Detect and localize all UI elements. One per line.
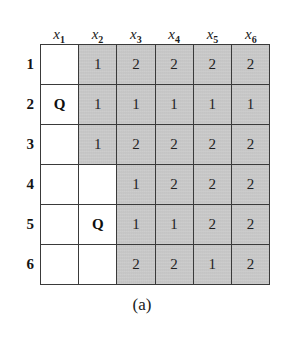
cell-value: 1 <box>132 217 140 232</box>
grid-cell-r6-c5[interactable]: 1 <box>194 245 232 285</box>
grid-cell-r1-c5[interactable]: 2 <box>194 45 232 85</box>
grid-cell-r3-c4[interactable]: 2 <box>156 125 194 165</box>
cell-value: 1 <box>209 257 217 272</box>
cell-value: 1 <box>209 97 217 112</box>
cell-value: 1 <box>247 97 255 112</box>
grid-cell-r5-c6[interactable]: 2 <box>232 205 270 245</box>
grid-cell-r5-c5[interactable]: 2 <box>194 205 232 245</box>
row-label-1: 1 <box>12 44 36 84</box>
column-header-x6: x6 <box>232 16 270 42</box>
cell-value: 1 <box>94 97 102 112</box>
grid-cell-r4-c4[interactable]: 2 <box>156 165 194 205</box>
cell-value: 1 <box>132 97 140 112</box>
grid-cell-r1-c6[interactable]: 2 <box>232 45 270 85</box>
grid-cell-r2-c5[interactable]: 1 <box>194 85 232 125</box>
cell-value: 1 <box>94 57 102 72</box>
cell-value: 2 <box>170 257 178 272</box>
column-header-variable: x <box>168 27 175 42</box>
column-header-row: x1x2x3x4x5x6 <box>40 16 270 42</box>
cell-value: 2 <box>247 177 255 192</box>
grid-cell-r4-c5[interactable]: 2 <box>194 165 232 205</box>
cell-value: 1 <box>170 97 178 112</box>
row-label-5: 5 <box>12 205 36 245</box>
grid-cell-r2-c3[interactable]: 1 <box>117 85 155 125</box>
cell-value: 2 <box>209 57 217 72</box>
grid-cell-r3-c5[interactable]: 2 <box>194 125 232 165</box>
cell-value: 1 <box>132 177 140 192</box>
row-label-2: 2 <box>12 84 36 124</box>
cell-value: 2 <box>170 137 178 152</box>
column-header-x4: x4 <box>155 16 193 42</box>
grid-cell-r3-c2[interactable]: 1 <box>79 125 117 165</box>
grid-cell-r6-c1[interactable] <box>41 245 79 285</box>
cell-value: 2 <box>132 257 140 272</box>
grid-cell-r1-c1[interactable] <box>41 45 79 85</box>
cell-value: 1 <box>170 217 178 232</box>
row-label-3: 3 <box>12 124 36 164</box>
cell-value: 2 <box>170 57 178 72</box>
grid-cell-r3-c6[interactable]: 2 <box>232 125 270 165</box>
grid-cell-r3-c1[interactable] <box>41 125 79 165</box>
column-header-variable: x <box>207 27 214 42</box>
grid-cell-r6-c6[interactable]: 2 <box>232 245 270 285</box>
grid-cell-r6-c4[interactable]: 2 <box>156 245 194 285</box>
cell-value: 1 <box>94 137 102 152</box>
cell-value: 2 <box>247 137 255 152</box>
grid-cell-r4-c3[interactable]: 1 <box>117 165 155 205</box>
queen-cell-r5-c2[interactable]: Q <box>79 205 117 245</box>
queen-marker: Q <box>92 217 104 232</box>
cell-value: 2 <box>247 257 255 272</box>
grid-cell-r1-c3[interactable]: 2 <box>117 45 155 85</box>
cell-value: 2 <box>247 57 255 72</box>
queen-marker: Q <box>54 97 66 112</box>
grid-row: Q1122 <box>41 205 270 245</box>
grid-row: 2212 <box>41 245 270 285</box>
grid-cell-r4-c1[interactable] <box>41 165 79 205</box>
cell-value: 2 <box>132 137 140 152</box>
grid-cell-r5-c3[interactable]: 1 <box>117 205 155 245</box>
cell-value: 2 <box>247 217 255 232</box>
column-header-variable: x <box>92 27 99 42</box>
row-label-6: 6 <box>12 245 36 285</box>
grid-cell-r1-c4[interactable]: 2 <box>156 45 194 85</box>
grid-row: 12222 <box>41 45 270 85</box>
figure-panel-a: x1x2x3x4x5x6 123456 12222Q11111122221222… <box>0 0 284 339</box>
cell-value: 2 <box>209 137 217 152</box>
column-header-x1: x1 <box>40 16 78 42</box>
grid-cell-r3-c3[interactable]: 2 <box>117 125 155 165</box>
grid-cell-r5-c1[interactable] <box>41 205 79 245</box>
row-label-4: 4 <box>12 165 36 205</box>
cell-value: 2 <box>209 217 217 232</box>
column-header-x3: x3 <box>117 16 155 42</box>
grid-cell-r4-c2[interactable] <box>79 165 117 205</box>
figure-caption: (a) <box>0 296 284 313</box>
column-header-x2: x2 <box>78 16 116 42</box>
column-header-variable: x <box>130 27 137 42</box>
grid-cell-r6-c3[interactable]: 2 <box>117 245 155 285</box>
grid-cell-r2-c4[interactable]: 1 <box>156 85 194 125</box>
cell-value: 2 <box>170 177 178 192</box>
queen-cell-r2-c1[interactable]: Q <box>41 85 79 125</box>
cell-value: 2 <box>209 177 217 192</box>
grid-cell-r1-c2[interactable]: 1 <box>79 45 117 85</box>
row-label-column: 123456 <box>12 44 36 285</box>
constraint-matrix-grid: 12222Q11111122221222Q11222212 <box>40 44 270 285</box>
grid-cell-r4-c6[interactable]: 2 <box>232 165 270 205</box>
column-header-variable: x <box>245 27 252 42</box>
cell-value: 2 <box>132 57 140 72</box>
column-header-x5: x5 <box>193 16 231 42</box>
grid-cell-r5-c4[interactable]: 1 <box>156 205 194 245</box>
grid-row: 12222 <box>41 125 270 165</box>
grid-cell-r6-c2[interactable] <box>79 245 117 285</box>
grid-row: Q11111 <box>41 85 270 125</box>
column-header-variable: x <box>53 27 60 42</box>
grid-row: 1222 <box>41 165 270 205</box>
grid-cell-r2-c6[interactable]: 1 <box>232 85 270 125</box>
grid-cell-r2-c2[interactable]: 1 <box>79 85 117 125</box>
